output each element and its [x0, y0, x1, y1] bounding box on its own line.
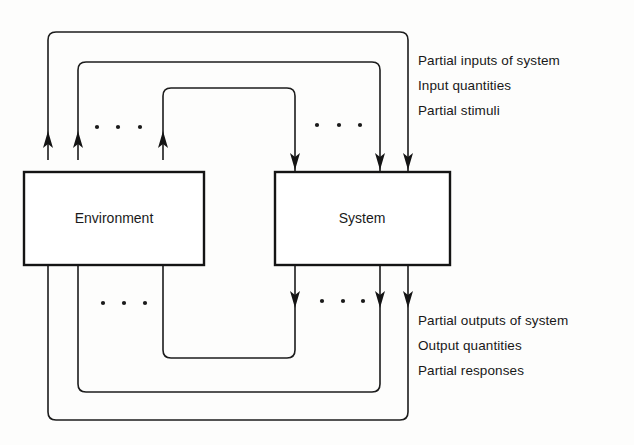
environment-box-label: Environment [75, 210, 154, 226]
ellipsis-dot [341, 299, 345, 303]
input-annotation-block: Partial inputs of system Input quantitie… [418, 48, 560, 123]
ellipsis-dot [138, 125, 142, 129]
diagram-canvas: Environment System Part [0, 0, 634, 445]
input-annotation-line-1: Partial inputs of system [418, 48, 560, 73]
ellipsis-dot [95, 125, 99, 129]
arrowheads-into-environment [43, 131, 168, 148]
ellipsis-dot [320, 299, 324, 303]
ellipsis-system-bottom [320, 299, 365, 303]
input-annotation-line-3: Partial stimuli [418, 98, 560, 123]
arrowheads-into-system [290, 153, 413, 170]
output-annotation-line-1: Partial outputs of system [418, 308, 568, 333]
ellipsis-dot [101, 301, 105, 305]
ellipsis-system-top [315, 123, 362, 127]
system-box[interactable]: System [275, 172, 450, 265]
output-annotation-line-2: Output quantities [418, 333, 568, 358]
input-annotation-line-2: Input quantities [418, 73, 560, 98]
ellipsis-dot [143, 301, 147, 305]
arrowheads-system-outputs [290, 291, 413, 308]
ellipsis-environment-top [95, 125, 142, 129]
environment-box[interactable]: Environment [24, 172, 204, 265]
ellipsis-dot [315, 123, 319, 127]
ellipsis-dot [122, 301, 126, 305]
system-box-label: System [339, 210, 386, 226]
output-annotation-block: Partial outputs of system Output quantit… [418, 308, 568, 383]
output-annotation-line-3: Partial responses [418, 358, 568, 383]
ellipsis-dot [116, 125, 120, 129]
ellipsis-dot [358, 123, 362, 127]
ellipsis-dot [361, 299, 365, 303]
ellipsis-dot [337, 123, 341, 127]
ellipsis-environment-bottom [101, 301, 147, 305]
